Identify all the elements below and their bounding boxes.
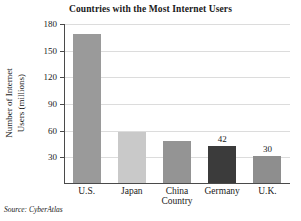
y-axis-tick-label: 180 xyxy=(44,19,58,29)
y-axis-tick xyxy=(60,77,65,78)
source-note: Source: CyberAtlas xyxy=(4,205,63,214)
y-axis-tick xyxy=(60,157,65,158)
plot-area: 306090120150180U.S.JapanChina42Germany30… xyxy=(64,24,290,184)
bar-japan xyxy=(118,132,146,183)
chart-title: Countries with the Most Internet Users xyxy=(0,3,301,15)
y-axis-title-line1: Number of Internet xyxy=(4,68,16,137)
y-axis-tick xyxy=(60,51,65,52)
bar-germany: 42 xyxy=(208,146,236,183)
bar-u-k: 30 xyxy=(253,156,281,183)
bar-value-label: 42 xyxy=(218,134,227,144)
bar-chart-figure: Countries with the Most Internet Users N… xyxy=(0,0,301,221)
x-axis-category-label: U.K. xyxy=(258,186,276,196)
y-axis-title-line2: Users (millions) xyxy=(15,68,27,137)
y-axis-tick-label: 150 xyxy=(44,46,58,56)
y-axis-tick xyxy=(60,24,65,25)
y-axis-tick-label: 60 xyxy=(48,126,57,136)
x-axis-category-label: U.S. xyxy=(78,186,95,196)
bar-value-label: 30 xyxy=(263,144,272,154)
y-axis-tick-label: 30 xyxy=(48,152,57,162)
y-axis-title: Number of Internet Users (millions) xyxy=(2,28,28,178)
x-axis-category-label: Japan xyxy=(121,186,143,196)
bar-u-s xyxy=(73,34,101,183)
gridline xyxy=(64,24,290,25)
y-axis-tick-label: 120 xyxy=(44,72,58,82)
y-axis-tick xyxy=(60,104,65,105)
bar-china xyxy=(163,141,191,183)
x-axis-category-label: China xyxy=(166,186,189,196)
x-axis-title: Country xyxy=(64,196,290,206)
x-axis-category-label: Germany xyxy=(205,186,240,196)
y-axis-tick xyxy=(60,131,65,132)
y-axis-tick-label: 90 xyxy=(48,99,57,109)
